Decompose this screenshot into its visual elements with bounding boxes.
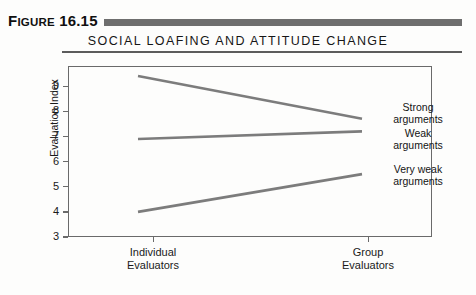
series-line (138, 76, 362, 119)
series-line (138, 131, 362, 139)
series-label-line2: arguments (368, 139, 468, 151)
series-label-line1: Weak (368, 127, 468, 139)
series-label-line1: Very weak (368, 163, 468, 175)
series-label-line1: Strong (368, 101, 468, 113)
series-label-line2: arguments (368, 175, 468, 187)
plot-area: Evaluation Index 3456789 IndividualEvalu… (0, 0, 476, 295)
series-label: Very weakarguments (368, 163, 468, 187)
series-label: Strongarguments (368, 101, 468, 125)
series-label: Weakarguments (368, 127, 468, 151)
series-label-line2: arguments (368, 113, 468, 125)
series-line (138, 174, 362, 212)
figure-container: FIGURE 16.15 SOCIAL LOAFING AND ATTITUDE… (0, 0, 476, 295)
